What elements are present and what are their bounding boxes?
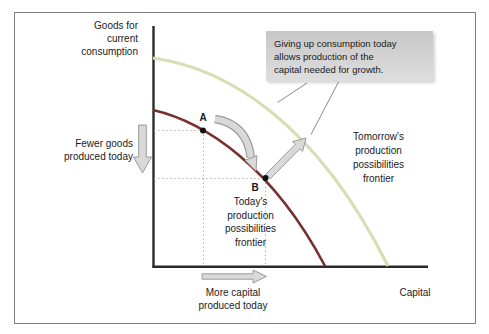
fewer-goods-arrow (134, 125, 152, 173)
more-capital-label: More capital produced today (183, 286, 283, 312)
point-b-dot (263, 175, 269, 181)
today-frontier-label: Today's production possibilities frontie… (202, 195, 299, 249)
point-a-dot (200, 128, 206, 134)
more-capital-arrow (202, 270, 267, 283)
ppf-figure: Goods for current consumption Capital To… (0, 0, 489, 334)
y-axis-label: Goods for current consumption (56, 19, 138, 58)
callout-leader-line-1 (278, 83, 308, 103)
point-a-label: A (197, 112, 209, 123)
x-axis-label: Capital (385, 286, 445, 299)
tomorrow-frontier-label: Tomorrow's production possibilities fron… (330, 130, 427, 186)
callout-leader-line-2 (311, 82, 339, 135)
fewer-goods-label: Fewer goods produced today (46, 137, 133, 163)
point-b-label: B (249, 182, 261, 193)
callout-box: Giving up consumption today allows produ… (266, 31, 433, 81)
b-to-tomorrow-arrow (266, 138, 306, 179)
